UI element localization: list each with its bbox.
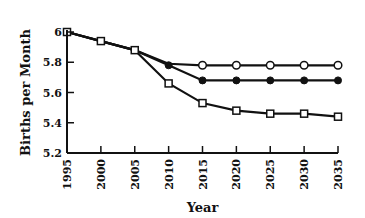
open-circle-marker [300,61,308,69]
series-line [67,32,338,65]
open-circle-marker [266,61,274,69]
x-axis-title: Year [186,200,219,215]
y-tick-label: 5.8 [43,56,62,69]
series-open-circle [67,32,342,69]
filled-circle-marker [267,77,274,84]
y-axis-title: Births per Month [18,29,33,156]
square-marker [199,100,206,107]
series-layer [64,29,342,121]
axes: 5.25.45.65.86199520002005201020152020202… [18,26,345,215]
y-tick-label: 6 [54,26,62,39]
square-marker [301,110,308,117]
filled-circle-marker [233,77,240,84]
x-tick-label: 2035 [332,159,345,190]
y-tick-label: 5.2 [43,147,62,160]
open-circle-marker [233,61,241,69]
square-marker [233,107,240,114]
series-filled-circle [67,32,342,84]
open-circle-marker [199,61,207,69]
x-tick-label: 2010 [163,159,176,190]
x-tick-label: 2030 [298,159,311,190]
square-marker [131,47,138,54]
square-marker [267,110,274,117]
filled-circle-marker [335,77,342,84]
x-tick-label: 2005 [129,159,142,190]
square-marker [97,38,104,45]
open-circle-marker [334,61,342,69]
x-tick-label: 2025 [264,159,277,190]
x-tick-label: 2000 [95,159,108,190]
square-marker [165,80,172,87]
filled-circle-marker [301,77,308,84]
filled-circle-marker [199,77,206,84]
series-line [67,32,338,80]
y-tick-label: 5.4 [43,117,62,130]
y-tick-label: 5.6 [43,87,62,100]
series-open-square [64,29,342,121]
square-marker [335,113,342,120]
x-tick-label: 1995 [61,159,74,190]
line-chart: 5.25.45.65.86199520002005201020152020202… [0,0,365,218]
filled-circle-marker [165,62,172,69]
x-tick-label: 2015 [197,159,210,190]
x-tick-label: 2020 [230,159,243,190]
